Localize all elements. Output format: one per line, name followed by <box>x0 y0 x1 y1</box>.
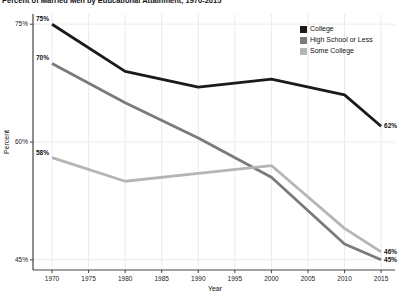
y-tick-label: 45% <box>15 256 28 263</box>
x-tick-label: 1985 <box>154 275 169 282</box>
legend-label: High School or Less <box>310 36 373 44</box>
series-start-label: 58% <box>36 149 49 156</box>
series-end-label: 46% <box>384 248 397 255</box>
series-line-some-college <box>52 158 381 252</box>
y-tick-label: 75% <box>15 20 28 27</box>
legend-item-college: College <box>300 25 373 33</box>
x-tick-label: 1975 <box>81 275 96 282</box>
x-tick-label: 1995 <box>228 275 243 282</box>
some-college-swatch-icon <box>300 48 307 55</box>
series-start-label: 70% <box>36 54 49 61</box>
y-axis-title: Percent <box>3 130 10 154</box>
college-swatch-icon <box>300 26 307 33</box>
x-tick-label: 2005 <box>301 275 316 282</box>
series-end-label: 45% <box>384 256 397 263</box>
legend-label: College <box>310 25 334 33</box>
series-end-label: 62% <box>384 122 397 129</box>
x-axis-title: Year <box>208 285 223 292</box>
x-tick-label: 1980 <box>118 275 133 282</box>
chart-figure: Percent of Married Men by Educational At… <box>0 0 402 298</box>
x-tick-label: 2000 <box>264 275 279 282</box>
x-tick-label: 1990 <box>191 275 206 282</box>
legend: College High School or Less Some College <box>300 25 373 55</box>
x-tick-label: 1970 <box>45 275 60 282</box>
x-tick-label: 2010 <box>337 275 352 282</box>
y-tick-label: 60% <box>15 138 28 145</box>
x-tick-label: 2015 <box>374 275 389 282</box>
legend-label: Some College <box>310 47 354 55</box>
legend-item-high-school-or-less: High School or Less <box>300 36 373 44</box>
series-start-label: 75% <box>36 15 49 22</box>
high-school-swatch-icon <box>300 37 307 44</box>
legend-item-some-college: Some College <box>300 47 373 55</box>
